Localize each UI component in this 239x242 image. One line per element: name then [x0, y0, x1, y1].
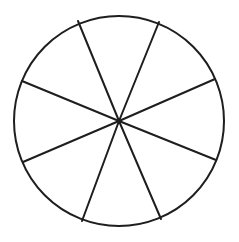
spoke-line-6: [82, 121, 119, 221]
spoke-line-7: [23, 121, 119, 162]
divided-circle-diagram: [0, 0, 239, 242]
spokes: [22, 21, 216, 221]
